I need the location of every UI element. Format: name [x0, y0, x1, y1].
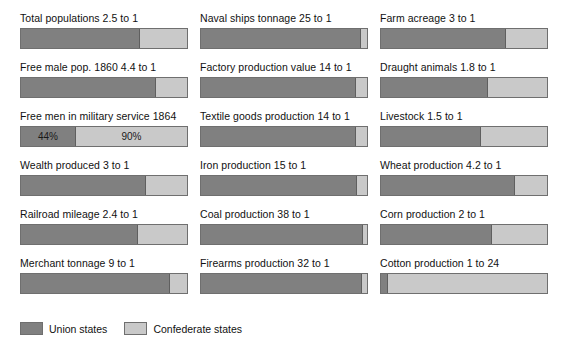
- bar-segment-union: [201, 225, 363, 244]
- chart-row-label: Draught animals 1.8 to 1: [380, 60, 548, 73]
- chart-row-label: Wealth produced 3 to 1: [20, 158, 188, 171]
- bar-segment-confederate: [357, 176, 367, 195]
- chart-row-label: Merchant tonnage 9 to 1: [20, 256, 188, 269]
- bar-segment-union: [201, 29, 361, 48]
- chart-row: Textile goods production 14 to 1: [200, 109, 368, 158]
- bar-segment-confederate: [138, 225, 187, 244]
- civil-war-resources-chart: Total populations 2.5 to 1Naval ships to…: [0, 0, 564, 349]
- bar-segment-confederate: [356, 127, 367, 146]
- stacked-bar: [20, 77, 188, 98]
- bar-segment-union: 44%: [21, 127, 76, 146]
- bar-segment-confederate: [362, 274, 367, 293]
- bar-segment-union: [201, 127, 356, 146]
- chart-row-label: Naval ships tonnage 25 to 1: [200, 11, 368, 24]
- bar-segment-union: [381, 78, 488, 97]
- bar-segment-union: [21, 176, 146, 195]
- chart-legend: Union states Confederate states: [20, 322, 242, 335]
- chart-row: Firearms production 32 to 1: [200, 256, 368, 305]
- bar-segment-confederate: [515, 176, 547, 195]
- chart-row: Corn production 2 to 1: [380, 207, 548, 256]
- chart-row: Wealth produced 3 to 1: [20, 158, 188, 207]
- chart-row-label: Free male pop. 1860 4.4 to 1: [20, 60, 188, 73]
- chart-row: Wheat production 4.2 to 1: [380, 158, 548, 207]
- bar-segment-confederate: [156, 78, 187, 97]
- stacked-bar: [380, 175, 548, 196]
- chart-row: Livestock 1.5 to 1: [380, 109, 548, 158]
- bar-chart-grid: Total populations 2.5 to 1Naval ships to…: [20, 11, 548, 305]
- chart-row-label: Cotton production 1 to 24: [380, 256, 548, 269]
- bar-segment-confederate: [170, 274, 187, 293]
- chart-row: Cotton production 1 to 24: [380, 256, 548, 305]
- chart-row: Farm acreage 3 to 1: [380, 11, 548, 60]
- chart-row-label: Wheat production 4.2 to 1: [380, 158, 548, 171]
- square-swatch-icon: [124, 322, 147, 335]
- chart-row: Railroad mileage 2.4 to 1: [20, 207, 188, 256]
- chart-row: Free male pop. 1860 4.4 to 1: [20, 60, 188, 109]
- chart-row: Factory production value 14 to 1: [200, 60, 368, 109]
- stacked-bar: [200, 126, 368, 147]
- chart-row-label: Firearms production 32 to 1: [200, 256, 368, 269]
- chart-row: Naval ships tonnage 25 to 1: [200, 11, 368, 60]
- bar-segment-union: [381, 274, 388, 293]
- chart-row: Draught animals 1.8 to 1: [380, 60, 548, 109]
- chart-row-label: Factory production value 14 to 1: [200, 60, 368, 73]
- stacked-bar: [20, 273, 188, 294]
- stacked-bar: [200, 77, 368, 98]
- bar-segment-confederate: [488, 78, 547, 97]
- stacked-bar: [380, 126, 548, 147]
- stacked-bar: [200, 224, 368, 245]
- bar-segment-confederate: [356, 78, 367, 97]
- stacked-bar: [20, 175, 188, 196]
- bar-segment-confederate: [140, 29, 187, 48]
- bar-segment-confederate: [146, 176, 188, 195]
- bar-segment-union: [21, 29, 140, 48]
- stacked-bar: [20, 224, 188, 245]
- chart-row-label: Total populations 2.5 to 1: [20, 11, 188, 24]
- bar-segment-union: [201, 176, 357, 195]
- stacked-bar: [20, 28, 188, 49]
- square-swatch-icon: [20, 322, 43, 335]
- chart-row: Merchant tonnage 9 to 1: [20, 256, 188, 305]
- chart-row-label: Livestock 1.5 to 1: [380, 109, 548, 122]
- bar-segment-union: [21, 225, 138, 244]
- stacked-bar: [200, 28, 368, 49]
- legend-label-union: Union states: [49, 323, 107, 335]
- chart-row: Free men in military service 186444%90%: [20, 109, 188, 158]
- bar-segment-union: [381, 29, 506, 48]
- bar-segment-union: [381, 127, 481, 146]
- bar-segment-confederate: [481, 127, 547, 146]
- stacked-bar: [380, 273, 548, 294]
- chart-row-label: Coal production 38 to 1: [200, 207, 368, 220]
- bar-segment-confederate: [361, 29, 367, 48]
- chart-row: Iron production 15 to 1: [200, 158, 368, 207]
- chart-row-label: Free men in military service 1864: [20, 109, 188, 122]
- bar-segment-confederate: [492, 225, 547, 244]
- bar-segment-confederate: [506, 29, 548, 48]
- stacked-bar: [380, 77, 548, 98]
- chart-row-label: Corn production 2 to 1: [380, 207, 548, 220]
- legend-label-confederate: Confederate states: [153, 323, 242, 335]
- chart-row-label: Iron production 15 to 1: [200, 158, 368, 171]
- chart-row: Coal production 38 to 1: [200, 207, 368, 256]
- legend-item-confederate: Confederate states: [124, 322, 242, 335]
- chart-row-label: Textile goods production 14 to 1: [200, 109, 368, 122]
- bar-segment-union: [201, 274, 362, 293]
- stacked-bar: [380, 224, 548, 245]
- stacked-bar: [200, 273, 368, 294]
- bar-segment-union: [201, 78, 356, 97]
- bar-segment-union: [21, 274, 170, 293]
- stacked-bar: [380, 28, 548, 49]
- chart-row: Total populations 2.5 to 1: [20, 11, 188, 60]
- bar-segment-confederate: [363, 225, 367, 244]
- bar-segment-union: [21, 78, 156, 97]
- bar-segment-union: [381, 176, 515, 195]
- bar-segment-confederate: [388, 274, 547, 293]
- bar-segment-confederate: 90%: [76, 127, 187, 146]
- stacked-bar: 44%90%: [20, 126, 188, 147]
- chart-row-label: Railroad mileage 2.4 to 1: [20, 207, 188, 220]
- chart-row-label: Farm acreage 3 to 1: [380, 11, 548, 24]
- legend-item-union: Union states: [20, 322, 107, 335]
- stacked-bar: [200, 175, 368, 196]
- bar-segment-union: [381, 225, 492, 244]
